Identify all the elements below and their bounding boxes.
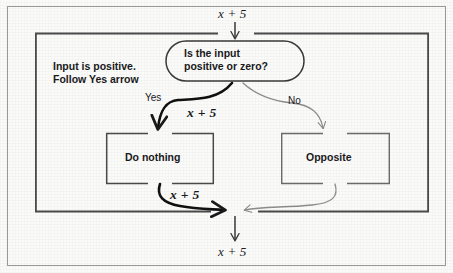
decision-node-line-2: positive or zero? — [184, 60, 268, 72]
yes-branch-value-label: x + 5 — [187, 105, 216, 121]
flowchart-canvas — [0, 0, 453, 273]
flowchart-screenshot: x + 5 Input is positive. Follow Yes arro… — [0, 0, 453, 273]
input-expression-label: x + 5 — [218, 6, 247, 21]
output-expression-label: x + 5 — [218, 244, 247, 259]
outer-frame — [8, 7, 446, 266]
yes-result-value-label: x + 5 — [170, 187, 199, 203]
process-no-label: Opposite — [306, 151, 352, 163]
decision-node-line-1: Is the input — [184, 47, 240, 59]
no-result-arrow — [245, 184, 336, 210]
annotation-line-2: Follow Yes arrow — [53, 73, 139, 85]
process-yes-label: Do nothing — [125, 151, 180, 163]
no-branch-label: No — [288, 95, 301, 107]
no-branch-arrow — [243, 83, 323, 128]
yes-branch-label: Yes — [145, 92, 161, 104]
annotation-line-1: Input is positive. — [53, 60, 136, 72]
